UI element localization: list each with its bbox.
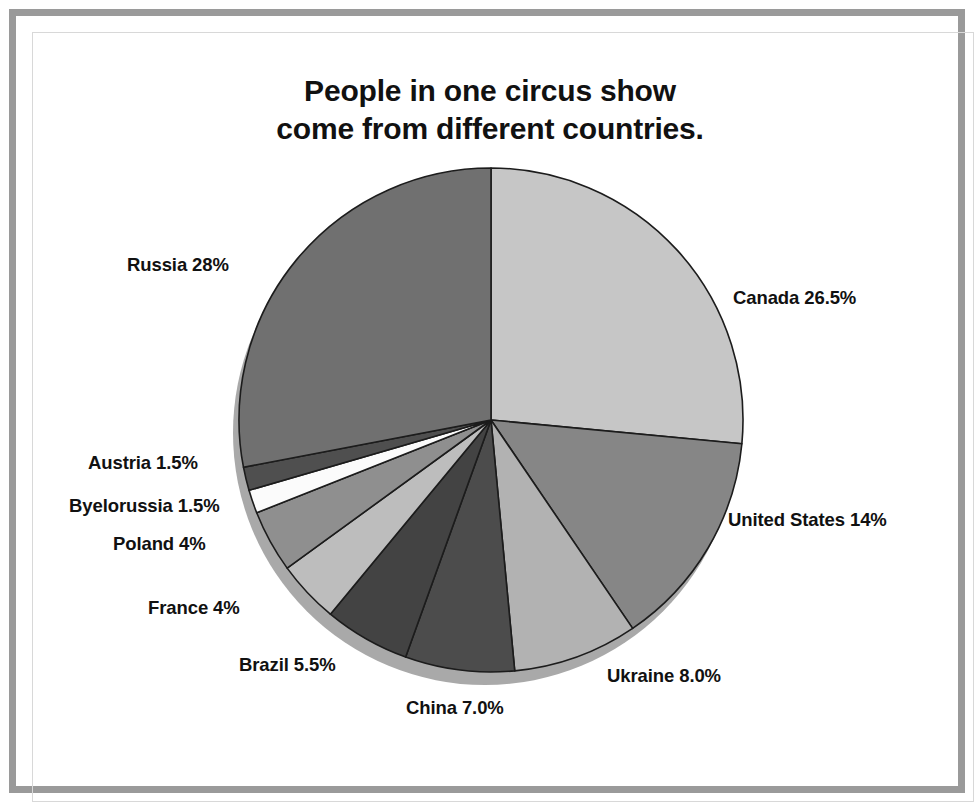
- pie-label-united-states: United States 14%: [728, 509, 887, 531]
- pie-label-russia: Russia 28%: [127, 254, 229, 276]
- pie-label-austria: Austria 1.5%: [88, 452, 198, 474]
- title-line-2: come from different countries.: [0, 110, 980, 148]
- pie-slice-canada[interactable]: Canada 26.5%: [491, 168, 743, 444]
- pie-label-ukraine: Ukraine 8.0%: [607, 665, 721, 687]
- pie-label-france: France 4%: [148, 597, 240, 619]
- pie-label-brazil: Brazil 5.5%: [239, 654, 336, 676]
- title-line-1: People in one circus show: [0, 72, 980, 110]
- chart-page: People in one circus show come from diff…: [0, 0, 980, 809]
- pie-chart-svg: Canada 26.5%United States 14%Ukraine 8.0…: [218, 155, 764, 691]
- pie-label-canada: Canada 26.5%: [733, 287, 856, 309]
- pie-label-poland: Poland 4%: [113, 533, 206, 555]
- pie-chart: Canada 26.5%United States 14%Ukraine 8.0…: [218, 155, 764, 691]
- pie-slices-group: Canada 26.5%United States 14%Ukraine 8.0…: [239, 168, 743, 672]
- pie-label-byelorussia: Byelorussia 1.5%: [69, 495, 220, 517]
- pie-slice-russia[interactable]: Russia 28%: [239, 168, 491, 467]
- page-title: People in one circus show come from diff…: [0, 72, 980, 149]
- pie-label-china: China 7.0%: [406, 697, 504, 719]
